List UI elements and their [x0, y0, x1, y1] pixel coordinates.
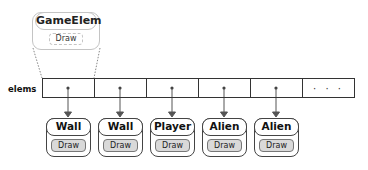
object-title: Player — [150, 118, 195, 136]
object-title: Wall — [46, 118, 91, 136]
prototype-draw-method: Draw — [49, 33, 83, 45]
array-cell-3 — [198, 78, 250, 98]
array-label: elems — [8, 84, 36, 94]
array-cell-1 — [94, 78, 146, 98]
object-draw-method: Draw — [259, 139, 294, 152]
array-cell-0 — [42, 78, 94, 98]
prototype-title: GameElem — [35, 12, 97, 30]
object-draw-method: Draw — [51, 139, 86, 152]
object-title: Wall — [98, 118, 143, 136]
object-title: Alien — [254, 118, 299, 136]
array-cell-4 — [250, 78, 302, 98]
ellipsis: · · · — [313, 83, 344, 94]
object-title: Alien — [202, 118, 247, 136]
array-cell-2 — [146, 78, 198, 98]
object-draw-method: Draw — [155, 139, 190, 152]
object-draw-method: Draw — [103, 139, 138, 152]
object-draw-method: Draw — [207, 139, 242, 152]
array-cell-ellipsis: · · · — [302, 78, 355, 98]
